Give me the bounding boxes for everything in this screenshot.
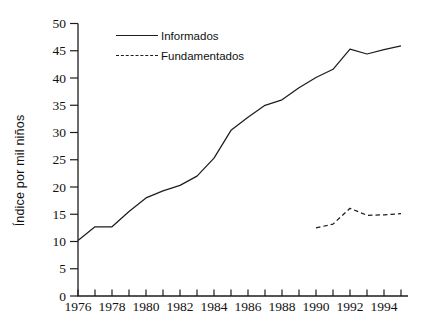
legend: Informados Fundamentados — [116, 29, 244, 69]
y-tick-label: 25 — [53, 152, 67, 167]
chart-figure: 0510152025303540455019761978198019821984… — [0, 0, 425, 336]
y-tick-label: 15 — [53, 207, 67, 222]
dashed-line-swatch-icon — [116, 55, 158, 56]
y-axis-title: Índice por mil niños — [13, 92, 28, 250]
x-tick-label: 1976 — [65, 299, 92, 314]
x-tick-label: 1990 — [303, 299, 330, 314]
x-tick-label: 1980 — [133, 299, 160, 314]
y-tick-label: 35 — [53, 98, 67, 113]
x-tick-label: 1992 — [337, 299, 364, 314]
legend-item-informados: Informados — [116, 29, 244, 42]
x-tick-label: 1984 — [201, 299, 228, 314]
x-tick-label: 1994 — [371, 299, 398, 314]
x-tick-label: 1982 — [167, 299, 194, 314]
legend-item-fundamentados: Fundamentados — [116, 49, 244, 62]
solid-line-swatch-icon — [116, 35, 158, 36]
y-tick-label: 40 — [53, 71, 67, 86]
fundamentados-line — [316, 208, 401, 228]
y-tick-label: 45 — [53, 43, 67, 58]
x-tick-label: 1988 — [269, 299, 296, 314]
y-tick-label: 20 — [53, 180, 67, 195]
y-tick-label: 5 — [59, 261, 66, 276]
x-tick-label: 1978 — [99, 299, 126, 314]
x-tick-label: 1986 — [235, 299, 262, 314]
y-tick-label: 50 — [53, 16, 67, 31]
legend-label-fundamentados: Fundamentados — [161, 50, 244, 62]
informados-line — [78, 46, 401, 241]
y-tick-label: 10 — [53, 234, 67, 249]
y-tick-label: 30 — [53, 125, 67, 140]
legend-label-informados: Informados — [161, 30, 219, 42]
